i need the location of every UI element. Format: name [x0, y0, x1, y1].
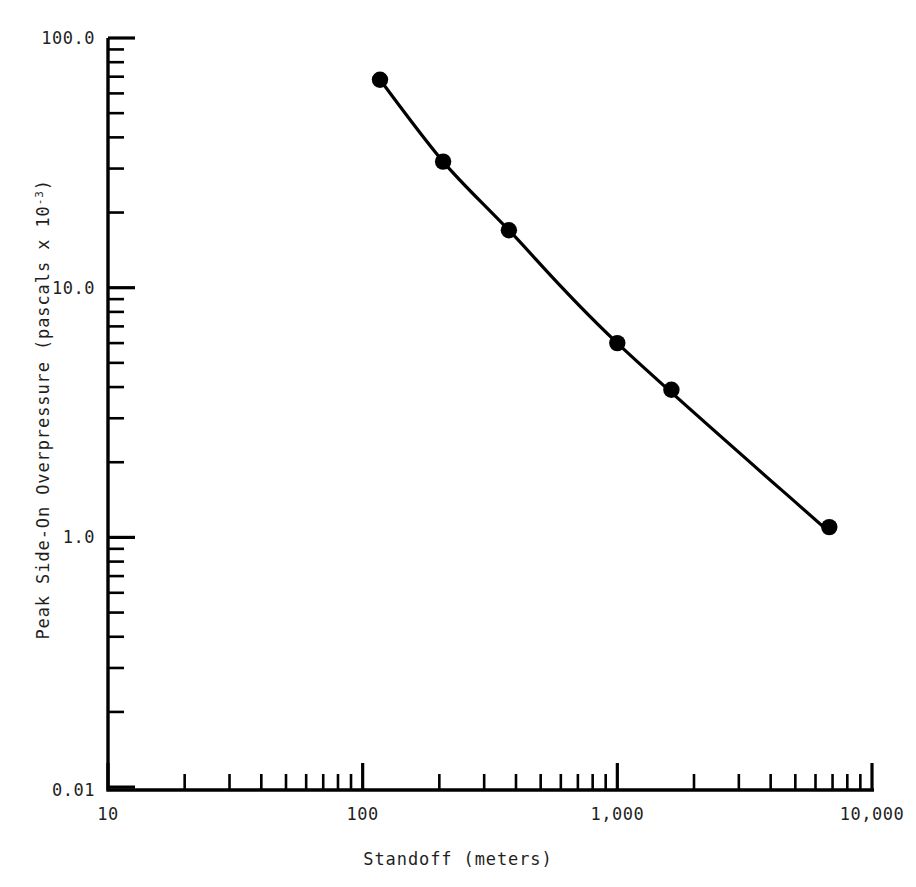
- data-point-markers: [372, 72, 838, 536]
- y-tick-label: 100.0: [0, 28, 95, 48]
- plot-canvas: [0, 0, 916, 887]
- y-axis-title: Peak Side-On Overpressure (pascals x 10-…: [33, 79, 54, 739]
- data-point-marker: [609, 335, 625, 351]
- x-tick-label: 10: [97, 804, 118, 824]
- axis-frame: [108, 38, 874, 790]
- x-tick-label: 10,000: [840, 804, 904, 824]
- y-axis-title-base: Peak Side-On Overpressure (pascals x 10: [33, 205, 53, 639]
- x-axis-title: Standoff (meters): [0, 849, 916, 869]
- data-point-marker: [501, 222, 517, 238]
- data-point-marker: [435, 153, 451, 169]
- data-point-marker: [372, 72, 388, 88]
- y-axis-title-exponent: -3: [33, 190, 46, 205]
- data-curve: [380, 80, 829, 532]
- x-tick-label: 100: [347, 804, 379, 824]
- axis-lines: [108, 38, 874, 790]
- chart-figure: 100.010.01.00.01101001,00010,000 Standof…: [0, 0, 916, 887]
- x-axis-ticks: [108, 763, 872, 790]
- data-point-marker: [663, 382, 679, 398]
- y-tick-label: 0.01: [0, 780, 95, 800]
- y-axis-title-tail: ): [33, 179, 53, 190]
- x-tick-label: 1,000: [590, 804, 644, 824]
- data-point-marker: [821, 519, 837, 535]
- y-axis-ticks: [108, 38, 135, 787]
